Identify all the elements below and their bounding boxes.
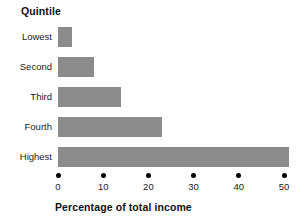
income-quintile-bar-chart: Quintile LowestSecondThirdFourthHighest …: [0, 0, 304, 222]
x-tick-dot-0: [56, 173, 61, 178]
x-tick-label-40: 40: [227, 182, 251, 192]
bar-fourth: [58, 117, 162, 137]
x-tick-label-10: 10: [91, 182, 115, 192]
bar-lowest: [58, 27, 72, 47]
category-label-third: Third: [0, 92, 52, 102]
bar-third: [58, 87, 121, 107]
x-tick-label-0: 0: [46, 182, 70, 192]
category-label-second: Second: [0, 62, 52, 72]
x-tick-label-30: 30: [182, 182, 206, 192]
category-label-highest: Highest: [0, 152, 52, 162]
category-label-fourth: Fourth: [0, 122, 52, 132]
x-axis-title: Percentage of total income: [55, 201, 192, 213]
category-label-lowest: Lowest: [0, 32, 52, 42]
x-tick-label-50: 50: [272, 182, 296, 192]
bar-highest: [58, 147, 289, 167]
x-tick-dot-50: [282, 173, 287, 178]
x-tick-label-20: 20: [136, 182, 160, 192]
x-tick-dot-20: [146, 173, 151, 178]
x-tick-dot-10: [101, 173, 106, 178]
bar-second: [58, 57, 94, 77]
